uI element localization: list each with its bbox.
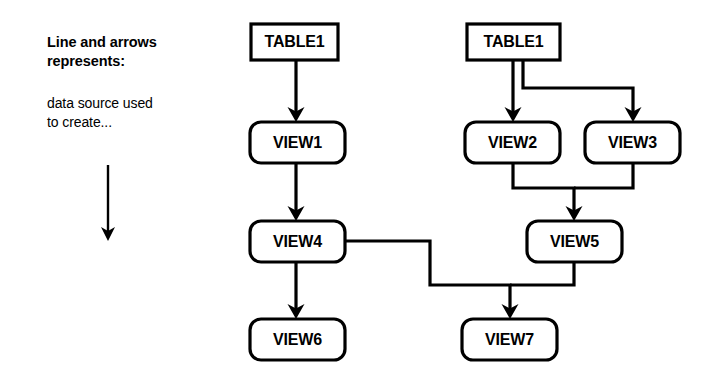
edge-view3-to-view5 (574, 163, 633, 188)
edge-line (523, 60, 633, 114)
diagram-canvas: TABLE1VIEW1VIEW4VIEW6TABLE1VIEW2VIEW3VIE… (0, 0, 716, 384)
edge-line (574, 163, 633, 188)
node-layer: TABLE1VIEW1VIEW4VIEW6TABLE1VIEW2VIEW3VIE… (250, 24, 680, 360)
node-table1-table1b[interactable]: TABLE1 (467, 24, 560, 60)
edge-view4-to-view7 (345, 241, 519, 319)
edge-table1b-to-view3 (523, 60, 642, 122)
legend-arrow-layer (101, 165, 115, 241)
node-label: VIEW1 (273, 134, 322, 151)
node-label: TABLE1 (265, 33, 325, 50)
node-label: VIEW7 (485, 331, 534, 348)
edge-line (345, 241, 510, 311)
node-view4-view4[interactable]: VIEW4 (250, 221, 345, 262)
node-view2-view2[interactable]: VIEW2 (465, 122, 560, 163)
edge-line (510, 262, 574, 285)
node-view7-view7[interactable]: VIEW7 (462, 319, 557, 360)
node-label: VIEW6 (273, 331, 322, 348)
edge-table1b-to-view2 (505, 60, 522, 122)
legend-down-arrow-icon (101, 165, 115, 241)
node-table1-table1a[interactable]: TABLE1 (251, 24, 338, 60)
edge-view2-to-view5 (513, 163, 583, 221)
node-view1-view1[interactable]: VIEW1 (250, 122, 345, 163)
node-view3-view3[interactable]: VIEW3 (585, 122, 680, 163)
node-label: VIEW4 (273, 233, 322, 250)
node-label: VIEW5 (550, 233, 599, 250)
diagram-root: Line and arrows represents: data source … (0, 0, 716, 384)
node-label: VIEW2 (488, 134, 537, 151)
node-view6-view6[interactable]: VIEW6 (250, 319, 345, 360)
edge-table1a-to-view1 (288, 60, 305, 122)
edge-line (513, 163, 574, 213)
edge-layer (288, 60, 642, 319)
edge-view1-to-view4 (288, 163, 305, 221)
edge-view4-to-view6 (288, 262, 305, 319)
node-label: TABLE1 (484, 33, 544, 50)
node-label: VIEW3 (608, 134, 657, 151)
edge-view5-to-view7 (510, 262, 574, 285)
node-view5-view5[interactable]: VIEW5 (527, 221, 622, 262)
